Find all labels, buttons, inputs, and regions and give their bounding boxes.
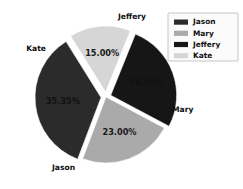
legend-swatch-kate [174,53,188,58]
legend-label-kate: Kate [193,51,212,60]
legend-label-jason: Jason [192,17,215,26]
pie-percent-label-jason: 35.35% [46,96,80,106]
pie-chart-figure: 26.65% 23.00% 35.35% 15.00% Jeffery Kate… [0,0,243,189]
legend-label-jeffery: Jeffery [192,40,220,49]
legend-label-mary: Mary [193,29,214,38]
pie-category-label-jeffery: Jeffery [117,12,146,21]
legend-swatch-mary [174,31,188,36]
pie-percent-label-mary: 23.00% [102,127,136,137]
legend-swatch-jeffery [174,42,188,47]
pie-percent-label-jeffery: 26.65% [130,77,164,87]
pie-category-label-kate: Kate [26,44,46,53]
legend-swatch-jason [174,20,188,25]
pie-category-label-mary: Mary [172,105,193,114]
legend: Jason Mary Jeffery Kate [168,13,238,61]
pie-category-label-jason: Jason [51,163,75,172]
pie-chart-canvas: 26.65% 23.00% 35.35% 15.00% Jeffery Kate… [0,0,243,189]
pie-slices-group [35,26,177,163]
pie-percent-label-kate: 15.00% [85,48,119,58]
